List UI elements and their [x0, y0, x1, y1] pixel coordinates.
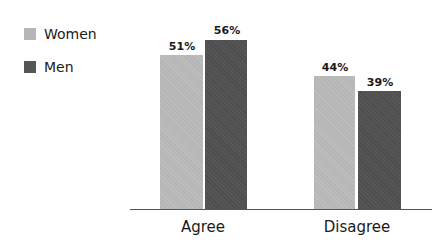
value-label-disagree-women: 44%: [313, 61, 357, 74]
legend-item-men: Men: [24, 59, 74, 75]
bar-agree-women: [160, 55, 203, 209]
value-label-disagree-men: 39%: [358, 76, 402, 89]
legend-swatch-women: [24, 28, 36, 40]
value-label-agree-women: 51%: [160, 40, 204, 53]
x-axis-baseline: [130, 209, 432, 210]
legend-swatch-men: [24, 61, 36, 73]
bar-disagree-men: [358, 91, 401, 209]
legend-item-women: Women: [24, 26, 97, 42]
legend-label-women: Women: [44, 26, 97, 42]
legend-label-men: Men: [44, 59, 74, 75]
value-label-agree-men: 56%: [205, 24, 249, 37]
bar-disagree-women: [314, 76, 355, 209]
category-label-agree: Agree: [143, 218, 263, 236]
category-label-disagree: Disagree: [297, 218, 417, 236]
bar-agree-men: [205, 40, 247, 209]
